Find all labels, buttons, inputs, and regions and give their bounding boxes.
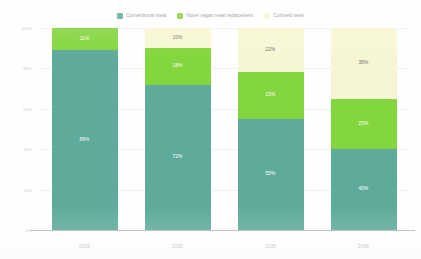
plot-area: 11% 89% 10% 18% 72% [38, 28, 410, 230]
bar-segment-label: 25% [358, 122, 368, 127]
stacked-bar-chart: Conventional meat Novel vegan meat repla… [0, 0, 421, 259]
bar-segment-conventional[interactable]: 40% [331, 149, 397, 230]
x-axis-tick-slot: 2030 [131, 234, 224, 252]
y-axis-tick: 20% [23, 187, 32, 192]
bar-segment-label: 40% [358, 187, 368, 192]
bar-stack: 22% 23% 55% [238, 28, 304, 230]
x-axis: 2025 2030 2035 2040 [38, 234, 410, 252]
y-axis-tick: 100% [21, 26, 32, 31]
bar-segment-cultured[interactable]: 10% [145, 28, 211, 48]
bar-column-2035[interactable]: 22% 23% 55% [224, 28, 317, 230]
bar-segment-label: 35% [358, 61, 368, 66]
bar-segment-label: 23% [265, 93, 275, 98]
chart-legend: Conventional meat Novel vegan meat repla… [0, 13, 421, 19]
y-axis-tick: 40% [23, 147, 32, 152]
x-axis-line [30, 230, 415, 231]
bar-segment-label: 18% [172, 64, 182, 69]
bar-column-2025[interactable]: 11% 89% [38, 28, 131, 230]
bar-stack: 35% 25% 40% [331, 28, 397, 230]
legend-item-conventional-meat[interactable]: Conventional meat [117, 13, 166, 19]
bar-segment-vegan[interactable]: 11% [52, 28, 118, 50]
x-axis-tick: 2040 [358, 244, 369, 249]
legend-swatch-icon-conventional [117, 13, 123, 19]
bar-segment-conventional[interactable]: 55% [238, 119, 304, 230]
bar-segment-cultured[interactable]: 35% [331, 28, 397, 99]
x-axis-tick-slot: 2025 [38, 234, 131, 252]
bar-segment-label: 72% [172, 155, 182, 160]
bar-segment-label: 55% [265, 172, 275, 177]
bar-column-2030[interactable]: 10% 18% 72% [131, 28, 224, 230]
legend-label-cultured: Cultured meat [273, 13, 303, 19]
bar-segment-label: 89% [79, 138, 89, 143]
bar-segment-vegan[interactable]: 23% [238, 72, 304, 118]
bar-segment-cultured[interactable]: 22% [238, 28, 304, 72]
legend-swatch-icon-vegan [177, 13, 183, 19]
y-axis-tick: 60% [23, 106, 32, 111]
legend-item-cultured-meat[interactable]: Cultured meat [264, 13, 303, 19]
bar-segment-vegan[interactable]: 18% [145, 48, 211, 84]
bar-segment-label: 22% [265, 48, 275, 53]
y-axis: 100% 80% 60% 40% 20% 0% [0, 28, 38, 230]
bar-segment-vegan[interactable]: 25% [331, 99, 397, 150]
x-axis-tick: 2035 [265, 244, 276, 249]
bar-column-2040[interactable]: 35% 25% 40% [317, 28, 410, 230]
legend-item-novel-vegan-meat-replacement[interactable]: Novel vegan meat replacement [177, 13, 253, 19]
legend-label-vegan: Novel vegan meat replacement [186, 13, 253, 19]
legend-label-conventional: Conventional meat [126, 13, 166, 19]
x-axis-tick: 2025 [79, 244, 90, 249]
x-axis-tick: 2030 [172, 244, 183, 249]
legend-swatch-icon-cultured [264, 13, 270, 19]
y-axis-tick: 80% [23, 66, 32, 71]
bar-stack: 11% 89% [52, 28, 118, 230]
x-axis-tick-slot: 2040 [317, 234, 410, 252]
bar-segment-label: 11% [80, 37, 90, 42]
bar-stack: 10% 18% 72% [145, 28, 211, 230]
bar-segment-conventional[interactable]: 89% [52, 50, 118, 230]
bar-group: 11% 89% 10% 18% 72% [38, 28, 410, 230]
bar-segment-label: 10% [172, 36, 182, 41]
bar-segment-conventional[interactable]: 72% [145, 85, 211, 230]
x-axis-tick-slot: 2035 [224, 234, 317, 252]
